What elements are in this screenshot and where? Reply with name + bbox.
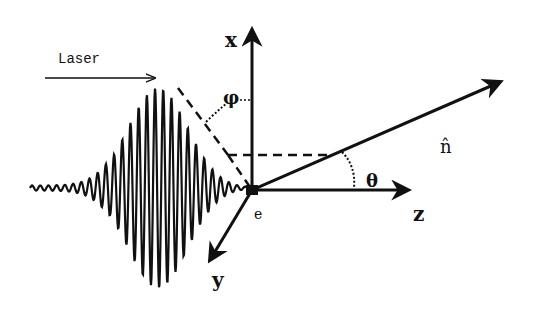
theta-angle-arc bbox=[342, 152, 354, 188]
theta-label: θ bbox=[366, 172, 378, 190]
x-axis-label: x bbox=[225, 30, 237, 50]
diagram-canvas bbox=[0, 0, 536, 309]
n-hat-label: n̂ bbox=[440, 138, 452, 156]
laser-pulse-waveform bbox=[30, 89, 250, 288]
electron-marker bbox=[246, 185, 258, 195]
y-axis-label: y bbox=[212, 270, 224, 290]
projection-dashed-lines bbox=[178, 88, 330, 190]
phi-label: φ bbox=[223, 89, 239, 107]
electron-label: e bbox=[254, 207, 262, 221]
laser-label: Laser bbox=[58, 52, 100, 66]
z-axis-label: z bbox=[413, 204, 424, 224]
